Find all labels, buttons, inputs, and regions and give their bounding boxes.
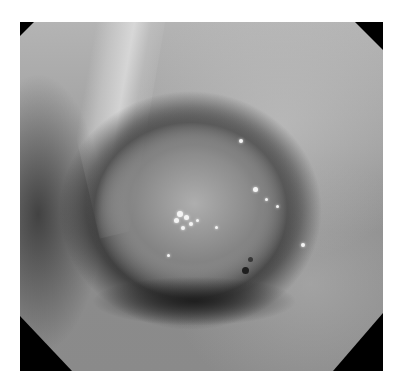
viewport-corner	[355, 22, 383, 50]
viewport-corner	[333, 313, 383, 371]
lower-fold-shadow	[20, 22, 383, 371]
viewport-corner	[20, 316, 72, 371]
specular-highlight	[177, 211, 183, 217]
endoscopic-image	[20, 22, 383, 371]
pit	[248, 257, 253, 262]
pit	[242, 267, 249, 274]
viewport-corner	[20, 22, 34, 36]
